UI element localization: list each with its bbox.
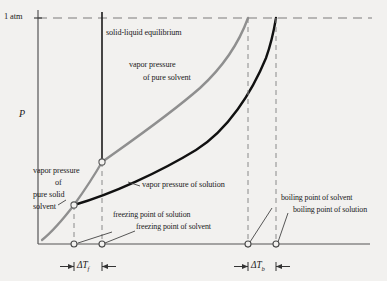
leader-boiling-point-solvent (250, 208, 272, 242)
marker-freezing-point-solution (71, 241, 77, 247)
label-vapor-pressure-pure-solvent-line1: vapor pressure (129, 60, 176, 69)
dtb-right-arrowhead (276, 264, 282, 269)
vapor-pressure-pure-solvent-curve (102, 18, 248, 162)
label-vapor-pressure-pure-solid-line2: of (55, 178, 62, 187)
leader-boiling-point-solution (278, 213, 288, 242)
label-vapor-pressure-pure-solid-line4: solvent (33, 202, 56, 211)
dtf-right-arrowhead (102, 264, 108, 269)
label-vapor-pressure-pure-solid-line3: pure solid (33, 190, 65, 199)
vapor-pressure-solution-curve (74, 18, 276, 205)
delta-tf-symbol: ΔT (77, 260, 88, 270)
delta-tb-subscript: b (262, 265, 265, 272)
leader-vapor-pressure-pure-solid (58, 200, 66, 205)
phase-diagram-figure: 1 atm P solid-liquid equilibrium vapor p… (0, 0, 387, 281)
marker-triple-point-solvent (99, 159, 105, 165)
label-delta-tb: ΔTb (251, 260, 265, 272)
marker-freezing-point-solvent (99, 241, 105, 247)
y-axis-tick-label-one-atm: 1 atm (4, 12, 22, 21)
label-vapor-pressure-pure-solvent-line2: of pure solvent (143, 73, 191, 82)
label-vapor-pressure-of-solution: vapor pressure of solution (142, 180, 225, 189)
label-boiling-point-of-solution: boiling point of solution (293, 206, 367, 215)
leader-freezing-point-solution (78, 232, 112, 243)
y-axis-label-pressure: P (19, 108, 25, 119)
label-solid-liquid-equilibrium: solid-liquid equilibrium (106, 28, 182, 37)
delta-tf-subscript: f (88, 265, 90, 272)
label-freezing-point-of-solvent: freezing point of solvent (136, 223, 211, 232)
label-delta-tf: ΔTf (77, 260, 89, 272)
label-boiling-point-of-solvent: boiling point of solvent (281, 194, 352, 203)
phase-diagram-canvas (0, 0, 387, 281)
dtb-left-arrowhead (242, 264, 248, 269)
label-freezing-point-of-solution: freezing point of solution (113, 211, 190, 220)
delta-tb-symbol: ΔT (251, 260, 262, 270)
label-vapor-pressure-pure-solid-line1: vapor pressure (33, 166, 80, 175)
dtf-left-arrowhead (68, 264, 74, 269)
marker-triple-point-solution (71, 202, 77, 208)
